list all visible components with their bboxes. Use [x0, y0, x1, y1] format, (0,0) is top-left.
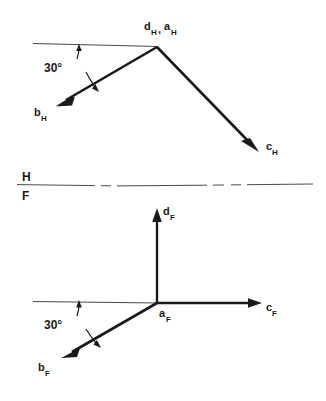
- apex-label-group: d H , a H: [144, 20, 177, 37]
- divider-segment-1: [17, 185, 95, 186]
- label-bh-sub: H: [41, 114, 47, 123]
- label-cf-sub: F: [272, 309, 277, 318]
- vector-bf-arrowhead: [61, 348, 80, 358]
- divider-segment-3: [117, 185, 207, 186]
- plane-divider-group: H F: [17, 170, 313, 203]
- label-bf-main: b: [38, 361, 45, 373]
- label-df-sub: F: [170, 213, 175, 222]
- diagram-root: 30° d H , a H b H c H: [0, 0, 326, 401]
- apex-label-a-sub: H: [171, 28, 177, 37]
- label-af-main: a: [159, 307, 166, 319]
- vector-bh-shaft: [66, 47, 157, 100]
- label-cf-group: c F: [266, 301, 277, 318]
- label-df-main: d: [163, 205, 170, 217]
- horizontal-projection-group: 30° d H , a H b H c H: [33, 20, 278, 157]
- label-af-group: a F: [159, 307, 171, 324]
- projection-diagram-svg: 30° d H , a H b H c H: [0, 0, 326, 401]
- label-af-sub: F: [166, 315, 171, 324]
- apex-label-a-main: a: [164, 20, 171, 32]
- plane-label-h: H: [22, 170, 31, 184]
- divider-segment-6: [247, 184, 313, 185]
- apex-label-separator: ,: [158, 23, 161, 35]
- label-ch-sub: H: [272, 148, 278, 157]
- f-angle-leader-upper-arrowhead: [76, 300, 82, 308]
- f-reference-line: [33, 302, 158, 304]
- label-bh-main: b: [34, 106, 41, 118]
- frontal-projection-group: 30° a F d F c F b F: [33, 205, 277, 378]
- label-ch-group: c H: [266, 140, 278, 157]
- h-angle-label: 30°: [44, 61, 62, 75]
- vector-ch-arrowhead: [241, 138, 259, 152]
- apex-label-d-main: d: [144, 20, 151, 32]
- label-bh-group: b H: [34, 106, 47, 123]
- vector-bf-shaft: [72, 303, 157, 352]
- label-bf-sub: F: [45, 369, 50, 378]
- vector-df-arrowhead: [152, 208, 162, 222]
- label-df-group: d F: [163, 205, 175, 222]
- vector-ch-shaft: [157, 47, 249, 142]
- h-reference-line: [33, 44, 158, 47]
- apex-label-d-sub: H: [151, 28, 157, 37]
- plane-label-f: F: [22, 189, 29, 203]
- f-angle-label: 30°: [44, 318, 62, 332]
- label-bf-group: b F: [38, 361, 50, 378]
- vector-cf-arrowhead: [248, 298, 262, 307]
